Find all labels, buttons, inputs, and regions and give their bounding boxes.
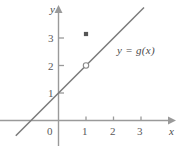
y-tick-label-3: 3 xyxy=(48,33,54,44)
y-tick-label-1: 1 xyxy=(48,88,54,99)
y-axis-arrowhead xyxy=(55,5,63,13)
coordinate-plot xyxy=(0,0,181,146)
function-label-g: y = g(x) xyxy=(117,45,155,56)
origin-label: 0 xyxy=(47,126,53,137)
function-line-g xyxy=(16,8,144,136)
y-axis-label: y xyxy=(50,4,55,15)
x-tick-label-3: 3 xyxy=(137,126,143,137)
y-tick-label-2: 2 xyxy=(48,61,54,72)
x-axis-label: x xyxy=(169,126,174,137)
x-tick-label-2: 2 xyxy=(110,126,116,137)
x-axis-arrowhead xyxy=(168,117,176,125)
x-tick-label-1: 1 xyxy=(82,126,88,137)
filled-dot-point-1-3 xyxy=(84,32,88,36)
open-circle-point-1-2 xyxy=(83,63,88,68)
graph-figure: 1 2 3 1 2 3 0 x y y = g(x) xyxy=(0,0,181,146)
